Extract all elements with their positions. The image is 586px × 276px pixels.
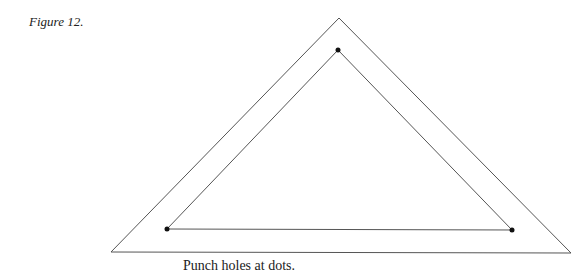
punch-hole-dot-left bbox=[165, 227, 170, 232]
triangle-diagram bbox=[0, 0, 586, 276]
inner-triangle bbox=[167, 50, 512, 230]
punch-hole-dot-top bbox=[336, 48, 341, 53]
figure-caption: Punch holes at dots. bbox=[183, 258, 295, 274]
punch-hole-dot-right bbox=[510, 228, 515, 233]
